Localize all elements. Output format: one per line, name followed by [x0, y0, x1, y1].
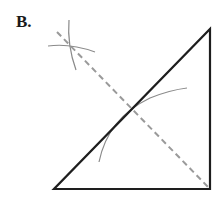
construction-diagram: [0, 0, 220, 197]
top-vertical-arc: [69, 20, 76, 70]
top-horizontal-arc: [48, 45, 95, 52]
dashed-bisector-line: [57, 32, 210, 189]
